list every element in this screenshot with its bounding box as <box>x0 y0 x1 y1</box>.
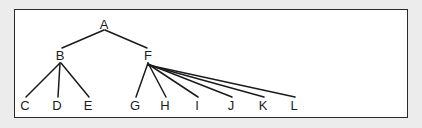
tree-node-l: L <box>290 99 297 112</box>
tree-node-c: C <box>20 99 29 112</box>
tree-node-h: H <box>160 99 169 112</box>
tree-node-i: I <box>195 99 199 112</box>
tree-node-a: A <box>100 18 109 31</box>
tree-edge-f-k <box>148 65 264 97</box>
tree-node-e: E <box>84 99 93 112</box>
tree-node-f: F <box>144 49 152 62</box>
tree-edges-canvas <box>0 0 422 128</box>
tree-node-g: G <box>130 99 140 112</box>
tree-node-b: B <box>56 49 65 62</box>
tree-edge-f-g <box>136 63 148 97</box>
edge-group <box>26 30 295 97</box>
tree-node-k: K <box>259 99 268 112</box>
tree-edge-b-d <box>58 63 60 97</box>
tree-node-j: J <box>228 99 235 112</box>
tree-edge-b-e <box>61 63 89 97</box>
tree-edge-a-f <box>105 30 147 48</box>
tree-node-d: D <box>52 99 61 112</box>
tree-edge-b-c <box>26 63 60 97</box>
tree-diagram-figure: ABFCDEGHIJKL <box>0 0 422 128</box>
tree-edge-a-b <box>62 30 104 48</box>
